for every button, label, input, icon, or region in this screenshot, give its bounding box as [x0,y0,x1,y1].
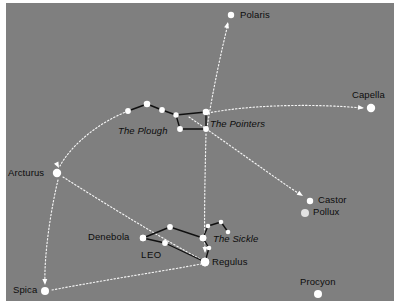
star-mu-leo [219,220,224,225]
label-regulus: Regulus [212,257,248,267]
star-denebola [140,235,146,241]
star-procyon [314,290,322,298]
label-the-sickle: The Sickle [213,234,258,244]
label-capella: Capella [352,90,385,100]
star-mizar [144,101,151,108]
star-chart-figure: PolarisCapellaThe PloughThe PointersArct… [0,0,400,307]
label-arcturus: Arcturus [8,168,44,178]
label-the-pointers: The Pointers [210,119,265,129]
label-polaris: Polaris [240,10,270,20]
star-pollux [301,209,309,217]
star-algieba2 [200,235,207,242]
star-alioth [159,107,165,113]
star-regulus [201,258,209,266]
star-phecda [177,126,183,132]
label-leo: LEO [141,250,162,260]
star-alkaid [125,108,131,114]
sky-canvas [0,0,400,307]
label-procyon: Procyon [300,277,336,287]
label-castor: Castor [318,195,347,205]
label-denebola: Denebola [88,232,129,242]
star-megrez [173,112,178,117]
sky-background [6,3,394,301]
star-chort [162,240,168,246]
star-merak [203,126,209,132]
star-eta-leo [207,246,212,251]
star-capella [367,104,375,112]
star-castor [307,198,313,204]
star-zosma [167,224,173,230]
star-dubhe [203,109,210,116]
star-spica [41,287,49,295]
label-pollux: Pollux [313,207,339,217]
star-zeta-leo [206,224,211,229]
label-the-plough: The Plough [118,126,168,136]
star-arcturus [53,169,61,177]
star-polaris [228,12,234,18]
label-spica: Spica [13,285,37,295]
